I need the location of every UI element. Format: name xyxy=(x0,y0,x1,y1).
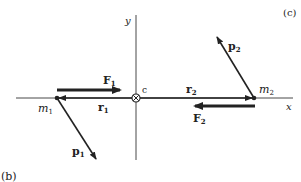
two-body-diagram: (c) (b) y x c m1 m2 F1 F2 r1 r2 p1 p2 xyxy=(0,0,301,182)
panel-label-top: (c) xyxy=(283,7,297,18)
origin-label: c xyxy=(142,85,147,95)
F1-label: F1 xyxy=(103,74,116,88)
mass-2-dot xyxy=(252,96,257,101)
x-axis-label: x xyxy=(286,101,292,112)
origin-cross-icon xyxy=(132,94,140,102)
y-axis-label: y xyxy=(124,15,131,26)
panel-label-bottom: (b) xyxy=(1,170,17,182)
mass-1-label: m1 xyxy=(38,102,53,116)
p2-label: p2 xyxy=(228,40,241,54)
p1-label: p1 xyxy=(72,145,85,159)
r2-label: r2 xyxy=(186,83,197,97)
mass-1-dot xyxy=(55,96,60,101)
mass-2-label: m2 xyxy=(259,83,274,97)
F2-label: F2 xyxy=(193,112,206,126)
r1-label: r1 xyxy=(98,101,109,115)
